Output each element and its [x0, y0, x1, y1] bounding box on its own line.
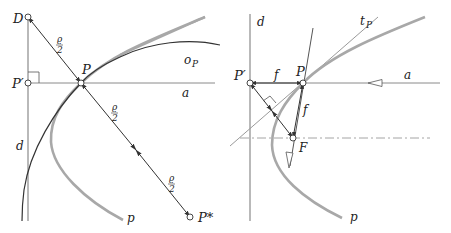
- label-D: D: [12, 11, 24, 26]
- fraction-rho-half-1: ϱ 2: [56, 34, 63, 55]
- label-o-sub: P: [191, 59, 199, 69]
- label-P-prime: P′: [233, 68, 246, 83]
- svg-text:2: 2: [111, 113, 118, 123]
- point-P: [78, 80, 84, 86]
- label-t-sub: P: [365, 20, 373, 30]
- parabola-curve: [51, 17, 205, 220]
- right-panel: d t P P′ P f f a F p: [230, 14, 440, 224]
- normal-segment-lower-2: [136, 150, 190, 217]
- label-p: p: [127, 211, 135, 225]
- point-F: [290, 135, 296, 141]
- point-P-prime: [25, 80, 31, 86]
- label-P-prime: P′: [11, 76, 24, 91]
- svg-text:ϱ: ϱ: [57, 34, 63, 44]
- label-a: a: [404, 68, 411, 82]
- normal-direction-arrow-icon: [286, 152, 293, 168]
- point-P-prime: [247, 80, 253, 86]
- label-P: P: [81, 62, 91, 77]
- point-P-star: [187, 214, 193, 220]
- label-f-vertical: f: [302, 103, 310, 117]
- label-P: P: [295, 64, 305, 79]
- normal-segment-lower-1: [81, 83, 136, 150]
- parabola-diagram: D P′ P o P a d p P* ϱ 2 ϱ 2 ϱ 2: [0, 0, 451, 233]
- label-d: d: [257, 15, 265, 29]
- label-a: a: [182, 86, 189, 100]
- label-t: t: [360, 14, 365, 28]
- label-f-horizontal: f: [273, 68, 281, 82]
- svg-text:2: 2: [56, 45, 63, 55]
- svg-text:2: 2: [168, 184, 175, 194]
- point-D: [25, 14, 31, 20]
- svg-text:ϱ: ϱ: [169, 173, 175, 183]
- fraction-rho-half-3: ϱ 2: [168, 173, 175, 194]
- parabola-curve: [272, 17, 425, 218]
- label-p: p: [350, 210, 358, 224]
- point-P: [300, 80, 306, 86]
- left-panel: D P′ P o P a d p P* ϱ 2 ϱ 2 ϱ 2: [11, 11, 220, 225]
- normal-segment-upper: [28, 17, 81, 83]
- svg-text:ϱ: ϱ: [112, 102, 118, 112]
- label-o: o: [184, 53, 191, 67]
- axis-direction-arrow-icon: [368, 80, 382, 87]
- fraction-rho-half-2: ϱ 2: [111, 102, 118, 123]
- label-P-star: P*: [197, 210, 214, 225]
- label-F: F: [298, 141, 308, 155]
- label-d: d: [16, 139, 24, 153]
